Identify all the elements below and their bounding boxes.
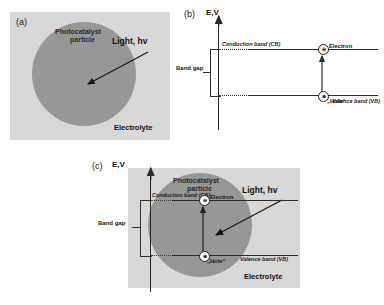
panel-c: (c) E,V [86,152,384,305]
conduction-band-label-b: Conduction band (CB) [222,42,280,48]
light-label-c: Light, hv [242,186,277,195]
hole-label-c: „Hole“ [207,258,225,264]
conduction-band-dotted-c [151,200,173,201]
panel-b: (b) E,V Conduction band (CB) Valen [182,0,384,150]
band-gap-label-c: Band gap [98,220,125,226]
particle-label-c-line1: Photocatalyst [173,177,219,184]
valence-band-dotted-b [219,95,249,96]
valence-band-label-c: Valence band (VB) [240,257,288,263]
panel-a-arrow-layer [0,0,180,150]
band-gap-tick-b [203,72,211,73]
conduction-band-line-b [248,49,378,50]
electron-label-c: Electron [210,194,233,200]
band-gap-tick-c [132,227,141,228]
light-arrow-a [88,52,148,84]
hole-label-b: „Hole“ [327,98,345,104]
electron-label-b: Electron [329,43,352,49]
band-gap-bracket-c [140,200,152,257]
electron-marker-b: ⊖ [318,44,329,55]
conduction-band-line-c [172,200,298,201]
electron-marker-c: ⊖ [199,195,210,206]
panel-a: (a) Photocatalyst particle Light, hv Ele… [0,0,180,150]
panel-c-vector-layer [86,152,384,305]
photocatalysis-figure: (a) Photocatalyst particle Light, hv Ele… [0,0,384,305]
conduction-band-dotted-b [219,49,249,50]
particle-label-c-line2: particle [187,185,212,192]
band-gap-bracket-b [210,49,221,97]
electrolyte-label-c: Electrolyte [244,273,282,281]
valence-band-line-b [248,95,378,96]
light-arrow-c [216,200,282,235]
band-gap-label-b: Band gap [176,65,203,71]
valence-band-dotted-c [151,255,173,256]
